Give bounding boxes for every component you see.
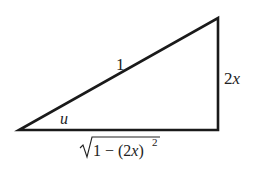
svg-text:1 − (2x): 1 − (2x) <box>93 142 144 160</box>
hypotenuse-label: 1 <box>116 55 125 74</box>
opposite-side-label: 2x <box>224 69 241 88</box>
triangle-diagram: 1 2x u 1 − (2x) 2 <box>0 0 255 172</box>
angle-label: u <box>60 110 68 127</box>
adjacent-side-label: 1 − (2x) 2 <box>80 136 160 160</box>
svg-text:2: 2 <box>152 136 158 148</box>
right-triangle <box>19 18 218 130</box>
